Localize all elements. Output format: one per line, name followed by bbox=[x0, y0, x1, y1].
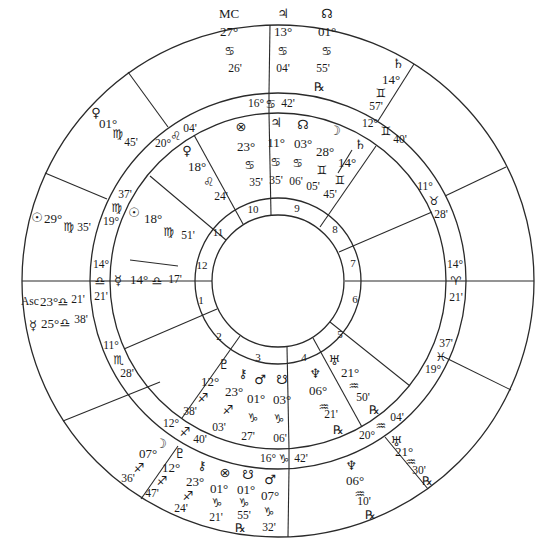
inner-sun-deg: 18° bbox=[144, 212, 162, 225]
cusp-10-min: 42' bbox=[281, 98, 295, 110]
inner-snode-min: 06' bbox=[273, 433, 287, 445]
house-number-5: 5 bbox=[337, 329, 343, 340]
inner-saturn-sign: ♊ bbox=[335, 174, 346, 186]
outer-mars-icon: ♂ bbox=[264, 473, 276, 486]
outer-snode-min: 55' bbox=[237, 510, 251, 522]
cusp-3-deg: 12° bbox=[163, 418, 179, 430]
inner-saturn-min: 45' bbox=[323, 189, 337, 201]
house-number-8: 8 bbox=[332, 224, 338, 235]
outer-mercury-sign: ♎ bbox=[60, 317, 71, 329]
inner-jupiter-min: 35' bbox=[269, 175, 283, 187]
house-number-9: 9 bbox=[294, 203, 300, 214]
inner-neptune-min: 21' bbox=[324, 409, 338, 421]
inner-snode-deg: 03° bbox=[273, 393, 291, 406]
outer-sun-sign: ♍ bbox=[64, 221, 75, 233]
mercury-icon: ☿ bbox=[114, 274, 122, 287]
cusp-12-min: 37' bbox=[118, 189, 132, 201]
inner-pof-deg: 23° bbox=[237, 140, 255, 153]
inner-venus-deg: 18° bbox=[188, 160, 206, 173]
house-number-1: 1 bbox=[198, 295, 204, 306]
cusp-8-min: 28' bbox=[434, 209, 448, 221]
inner-jupiter-deg: 11° bbox=[267, 136, 285, 149]
house-number-7: 7 bbox=[350, 258, 356, 269]
cusp-10-deg: 16° bbox=[248, 98, 264, 110]
inner-neptune-retro: ℞ bbox=[333, 425, 344, 437]
outer-pluto-deg: 12° bbox=[162, 461, 180, 474]
house-number-10: 10 bbox=[248, 204, 259, 215]
inner-pluto-min: 38' bbox=[183, 406, 197, 418]
outer-venus-min: 45' bbox=[124, 137, 138, 149]
outer-saturn-sign: ♊ bbox=[376, 87, 387, 99]
pisces-sign-icon: ♓ bbox=[436, 351, 447, 363]
cusp-4-deg: 16° bbox=[260, 453, 276, 465]
outer-saturn-min: 57' bbox=[369, 101, 383, 113]
outer-nnode-sign: ♋ bbox=[322, 45, 333, 57]
house-number-2: 2 bbox=[216, 331, 222, 342]
inner-uranus-sign: ♒ bbox=[349, 380, 360, 392]
cusp-7-deg: 14° bbox=[447, 259, 463, 271]
outer-pof-min: 21' bbox=[209, 512, 223, 524]
cusp-11-deg: 20° bbox=[155, 138, 171, 150]
outer-mercury-deg: 25° bbox=[41, 317, 59, 330]
outer-sun-min: 35' bbox=[77, 222, 91, 234]
outer-part-of-fortune-icon: ⊗ bbox=[220, 466, 231, 479]
outer-nnode-min: 55' bbox=[316, 63, 330, 75]
outer-jupiter-icon: ♃ bbox=[277, 7, 289, 20]
inner-mercury-min: 17' bbox=[168, 274, 182, 286]
house-number-6: 6 bbox=[352, 294, 358, 305]
outer-moon-sign: ♐ bbox=[134, 462, 145, 474]
inner-mercury-sign: ♎ bbox=[152, 275, 163, 287]
pluto-icon: ♇ bbox=[218, 358, 230, 371]
inner-mars-sign: ♑ bbox=[248, 412, 259, 424]
inner-nnode-deg: 03° bbox=[294, 137, 312, 150]
inner-mercury-deg: 14° bbox=[130, 273, 148, 286]
inner-chiron-sign: ♐ bbox=[223, 404, 234, 416]
inner-sun-min: 51' bbox=[181, 230, 195, 242]
libra-sign-icon: ♎ bbox=[95, 275, 106, 287]
capricorn-sign-icon: ♑ bbox=[279, 453, 290, 465]
house-number-3: 3 bbox=[255, 352, 261, 363]
outer-chiron-icon: ⚷ bbox=[197, 459, 207, 472]
cusp-5-deg: 20° bbox=[359, 430, 375, 442]
inner-uranus-deg: 21° bbox=[341, 366, 359, 379]
outer-snode-sign: ♑ bbox=[239, 497, 250, 509]
inner-pluto-sign: ♐ bbox=[198, 392, 209, 404]
inner-pluto-deg: 12° bbox=[201, 375, 219, 388]
sagittarius-sign-icon: ♐ bbox=[180, 426, 191, 438]
cusp-8-deg: 11° bbox=[417, 181, 433, 193]
outer-jupiter-min: 04' bbox=[276, 63, 290, 75]
outer-moon-min: 36' bbox=[121, 473, 135, 485]
inner-pof-min: 35' bbox=[249, 177, 263, 189]
cusp-7-min: 21' bbox=[449, 292, 463, 304]
outer-asc-min: 21' bbox=[71, 294, 85, 306]
inner-venus-sign: ♌ bbox=[204, 176, 215, 188]
cusp-9-deg: 12° bbox=[362, 118, 378, 130]
outer-mars-sign: ♑ bbox=[264, 506, 275, 518]
outer-uranus-retro: ℞ bbox=[422, 476, 433, 488]
inner-chiron-min: 03' bbox=[212, 422, 226, 434]
outer-neptune-min: 10' bbox=[357, 496, 371, 508]
taurus-sign-icon: ♉ bbox=[429, 195, 440, 207]
cancer-sign-icon: ♋ bbox=[266, 98, 277, 110]
cusp-1-deg: 14° bbox=[93, 259, 109, 271]
house-ring-inner bbox=[212, 215, 344, 347]
outer-venus-sign: ♍ bbox=[113, 128, 124, 140]
inner-mars-deg: 01° bbox=[247, 392, 265, 405]
jupiter-icon: ♃ bbox=[270, 116, 282, 129]
gemini-sign-icon: ♊ bbox=[381, 125, 392, 137]
outer-pluto-min: 47' bbox=[145, 488, 159, 500]
inner-nnode-sign: ♋ bbox=[293, 157, 304, 169]
outer-jupiter-sign: ♋ bbox=[278, 45, 289, 57]
outer-asc-deg: 23° bbox=[40, 295, 58, 308]
inner-moon-min: 05' bbox=[306, 181, 320, 193]
house-number-12: 12 bbox=[197, 260, 208, 271]
chart-wheel bbox=[0, 0, 554, 557]
outer-mc-min: 26' bbox=[228, 63, 242, 75]
inner-nnode-min: 06' bbox=[289, 176, 303, 188]
aries-sign-icon: ♈ bbox=[451, 275, 462, 287]
outer-pluto-icon: ♇ bbox=[174, 447, 186, 460]
cusp-11-min: 04' bbox=[183, 123, 197, 135]
outer-nnode-deg: 01° bbox=[318, 25, 336, 38]
outer-pof-sign: ♑ bbox=[212, 497, 223, 509]
outer-north-node-icon: ☊ bbox=[321, 7, 333, 20]
